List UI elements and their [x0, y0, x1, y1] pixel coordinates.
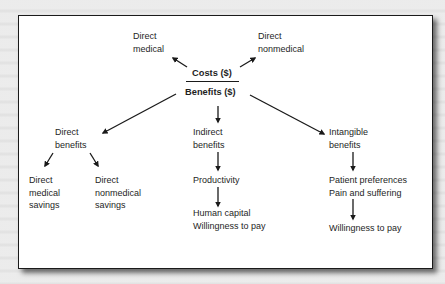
node-productivity: Productivity — [193, 174, 240, 187]
node-indirect-benefits: Indirect benefits — [193, 126, 225, 151]
node-intangible-benefits: Intangible benefits — [329, 126, 368, 151]
node-willingness-to-pay: Willingness to pay — [329, 222, 402, 235]
node-direct-nonmedical-savings: Direct nonmedical savings — [95, 174, 141, 212]
node-patient-preferences-pain: Patient preferences Pain and suffering — [329, 174, 407, 199]
node-direct-medical-savings: Direct medical savings — [29, 174, 60, 212]
costs-numerator: Costs ($) — [192, 67, 232, 80]
node-direct-nonmedical: Direct nonmedical — [258, 30, 304, 55]
node-direct-benefits: Direct benefits — [55, 126, 87, 151]
benefits-denominator: Benefits ($) — [185, 86, 236, 99]
node-direct-medical: Direct medical — [133, 30, 164, 55]
node-human-capital-wtp: Human capital Willingness to pay — [193, 207, 266, 232]
fraction-line — [186, 81, 239, 82]
